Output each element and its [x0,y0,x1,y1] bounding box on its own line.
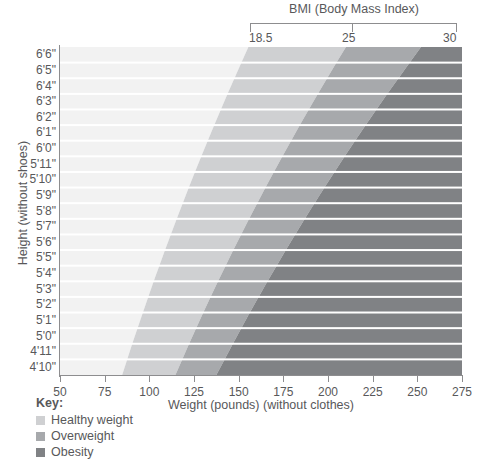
y-axis-tick-label: 4'11" [30,344,56,358]
x-axis-tick [149,376,150,382]
y-axis-tick-label: 6'6" [36,47,56,61]
x-axis-tick-label: 125 [184,385,204,399]
y-axis-tick-label: 5'9" [36,188,56,202]
x-axis-tick-label: 175 [273,385,293,399]
y-axis-tick-label: 6'2" [36,110,56,124]
x-axis-tick-label: 225 [363,385,383,399]
bmi-tick-label-18-5: 18.5 [249,31,272,45]
row-gridline [60,327,462,329]
x-axis-tick [283,376,284,382]
y-axis-tick-label: 5'1" [36,313,56,327]
row-gridline [60,124,462,126]
plot-area [60,47,462,375]
y-axis-tick-label: 5'11" [30,157,56,171]
chart-key: Key: Healthy weightOverweightObesity [36,396,133,459]
row-gridline [60,62,462,64]
y-axis-tick-label: 6'1" [36,125,56,139]
x-axis-tick [60,376,61,382]
bmi-bracket-line [250,23,457,24]
row-gridline [60,93,462,95]
x-axis-tick [373,376,374,382]
row-gridline [60,296,462,298]
row-gridline [60,155,462,157]
row-gridline [60,249,462,251]
key-title: Key: [36,396,133,410]
row-gridline [60,343,462,345]
y-axis-tick-label: 4'10" [29,360,56,374]
row-gridline [60,218,462,220]
bmi-tick-label-25: 25 [342,31,355,45]
key-item-label: Obesity [51,445,93,459]
y-axis-line [59,45,60,377]
bmi-scale-title: BMI (Body Mass Index) [208,2,490,16]
key-swatch [36,432,45,441]
row-gridline [60,312,462,314]
row-gridline [60,280,462,282]
key-item-label: Healthy weight [51,413,133,427]
row-gridline [60,202,462,204]
x-axis-tick-label: 275 [452,385,472,399]
x-axis-tick-label: 100 [139,385,159,399]
x-axis-tick [328,376,329,382]
row-gridline [60,171,462,173]
y-axis-tick-label: 6'0" [36,141,56,155]
x-axis-tick [417,376,418,382]
key-swatch [36,448,45,457]
y-axis-tick-label: 5'7" [36,219,56,233]
y-axis-tick-label: 6'5" [36,63,56,77]
key-item: Overweight [36,428,133,444]
bmi-band-svg [60,47,462,375]
key-items: Healthy weightOverweightObesity [36,412,133,459]
y-axis-tick-label: 5'5" [36,250,56,264]
y-axis-tick-label: 5'6" [36,235,56,249]
row-gridline [60,233,462,235]
x-axis-tick-label: 150 [229,385,249,399]
bmi-tick-label-30: 30 [443,31,456,45]
row-gridline [60,187,462,189]
x-axis-tick [105,376,106,382]
row-gridline [60,140,462,142]
y-axis-title: Height (without shoes) [16,133,30,273]
y-axis-tick-label: 5'3" [36,282,56,296]
x-axis-line [59,375,463,376]
row-gridline [60,265,462,267]
x-axis-tick [462,376,463,382]
bmi-scale-header: BMI (Body Mass Index) 18.5 25 30 [250,2,458,42]
bmi-chart: BMI (Body Mass Index) 18.5 25 30 5075100… [0,0,490,459]
y-axis-tick-label: 5'8" [36,204,56,218]
y-axis-tick-label: 5'2" [36,297,56,311]
key-item: Obesity [36,444,133,459]
y-axis-tick-label: 5'0" [36,329,56,343]
y-axis-tick-label: 6'4" [36,79,56,93]
x-axis-tick-label: 250 [407,385,427,399]
x-axis-tick [239,376,240,382]
y-axis-tick-label: 5'10" [29,172,56,186]
row-gridline [60,77,462,79]
key-item: Healthy weight [36,412,133,428]
key-swatch [36,416,45,425]
row-gridline [60,108,462,110]
x-axis-tick-label: 200 [318,385,338,399]
y-axis-tick-label: 6'3" [36,94,56,108]
x-axis-tick [194,376,195,382]
key-item-label: Overweight [51,429,114,443]
y-axis-tick-label: 5'4" [36,266,56,280]
row-gridline [60,358,462,360]
